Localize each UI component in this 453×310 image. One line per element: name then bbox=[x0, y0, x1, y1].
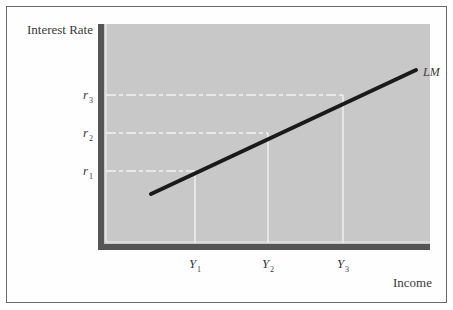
x-tick-y3: Y 3 bbox=[337, 256, 349, 274]
x-axis-label: Income bbox=[393, 275, 432, 290]
tick-sub: 3 bbox=[345, 265, 349, 274]
x-tick-y1: Y 1 bbox=[189, 256, 201, 274]
tick-sub: 2 bbox=[270, 265, 274, 274]
y-tick-r1: r 1 bbox=[83, 163, 93, 181]
tick-sub: 2 bbox=[89, 134, 93, 143]
tick-sub: 1 bbox=[89, 172, 93, 181]
y-axis-label: Interest Rate bbox=[27, 22, 93, 37]
lm-diagram: Interest Rate Income LM r 3 r 2 r 1 Y 1 … bbox=[0, 0, 453, 310]
y-tick-r2: r 2 bbox=[83, 125, 93, 143]
x-tick-y2: Y 2 bbox=[262, 256, 274, 274]
y-tick-r3: r 3 bbox=[83, 87, 93, 105]
y-axis bbox=[98, 24, 104, 250]
plot-area bbox=[104, 24, 430, 244]
x-axis bbox=[98, 244, 430, 250]
curve-label: LM bbox=[422, 65, 441, 79]
tick-sub: 3 bbox=[89, 96, 93, 105]
tick-sub: 1 bbox=[197, 265, 201, 274]
